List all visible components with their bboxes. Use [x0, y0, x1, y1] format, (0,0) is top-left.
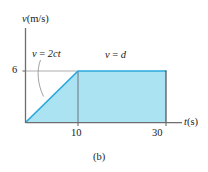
ramp-equation-rhs: 2ct [48, 48, 61, 59]
y-axis-label-unit: (m/s) [27, 13, 49, 24]
plateau-equation-lhs: v [105, 49, 110, 60]
leader-line-ramp-equation [38, 60, 43, 97]
x-tick-label-30: 30 [152, 128, 163, 139]
ramp-equation-lhs: v [32, 48, 37, 59]
plateau-equation-rhs: d [121, 49, 126, 60]
plot-canvas [0, 0, 208, 172]
annotation-ramp-equation: v = 2ct [32, 49, 61, 60]
velocity-time-graph-figure: v(m/s) t(s) v = 2ct v = d 6 10 30 (b) [0, 0, 208, 172]
ramp-equation-operator: = [39, 48, 45, 59]
y-tick-label-6: 6 [12, 65, 17, 76]
shaded-area-under-curve [26, 71, 167, 123]
y-axis-label: v(m/s) [22, 14, 49, 25]
x-axis-label: t(s) [184, 117, 198, 128]
annotation-plateau-equation: v = d [105, 50, 126, 61]
x-axis-label-unit: (s) [187, 116, 198, 127]
x-tick-label-10: 10 [71, 128, 82, 139]
plateau-equation-operator: = [112, 49, 118, 60]
figure-caption: (b) [93, 152, 105, 163]
